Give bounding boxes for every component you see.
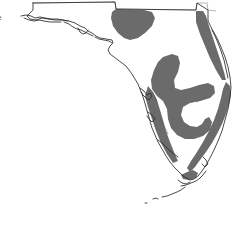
edge-label: e [0, 13, 6, 22]
florida-distribution-map: e [0, 0, 242, 225]
map-canvas [0, 0, 242, 225]
